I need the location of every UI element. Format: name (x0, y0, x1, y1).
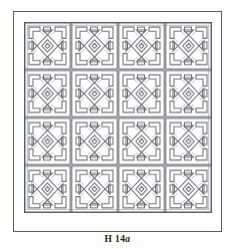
caption-prefix: H 14 (104, 234, 125, 244)
pattern-panel (24, 22, 212, 213)
plate-root: H 14a (0, 0, 235, 249)
lattice-pattern-figure (24, 22, 212, 213)
figure-caption: H 14a (0, 234, 235, 245)
caption-suffix: a (125, 234, 130, 244)
